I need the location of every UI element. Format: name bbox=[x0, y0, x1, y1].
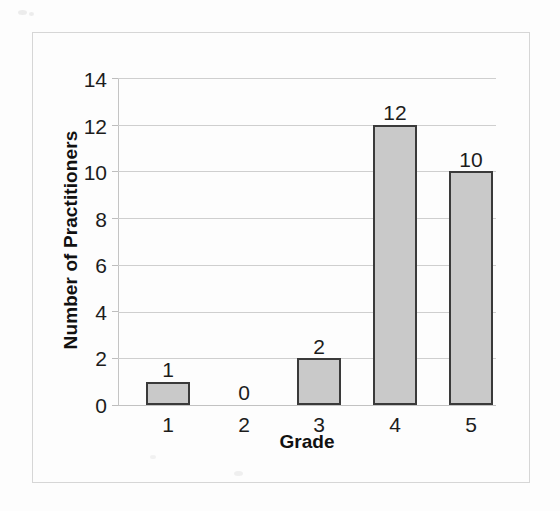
bar-label-grade-1: 1 bbox=[146, 359, 190, 380]
bar-label-grade-2: 0 bbox=[222, 382, 266, 403]
y-axis-title: Number of Practitioners bbox=[60, 95, 82, 385]
gridline-6 bbox=[118, 265, 496, 266]
gridline-10 bbox=[118, 171, 496, 172]
bar-grade-4[interactable] bbox=[373, 125, 417, 405]
y-tick-label-14: 14 bbox=[84, 69, 107, 90]
bar-label-grade-3: 2 bbox=[297, 336, 341, 357]
gridline-14 bbox=[118, 78, 496, 79]
y-tick-label-10: 10 bbox=[84, 162, 107, 183]
bar-grade-1[interactable] bbox=[146, 382, 190, 405]
gridline-12 bbox=[118, 125, 496, 126]
y-tick-label-2: 2 bbox=[95, 348, 107, 369]
chart-frame: 14 12 10 8 6 4 2 0 Number of Practitione… bbox=[32, 32, 530, 483]
bar-label-grade-5: 10 bbox=[449, 149, 493, 170]
gridline-4 bbox=[118, 312, 496, 313]
x-axis-title: Grade bbox=[118, 431, 496, 453]
bar-grade-5[interactable] bbox=[449, 171, 493, 405]
plot-area: 1 0 2 12 10 bbox=[118, 78, 496, 405]
y-tick-label-4: 4 bbox=[95, 302, 107, 323]
gridline-0-baseline bbox=[118, 405, 496, 406]
bar-label-grade-4: 12 bbox=[373, 102, 417, 123]
scan-artifact bbox=[29, 12, 34, 16]
y-tick-label-6: 6 bbox=[95, 255, 107, 276]
chart-screenshot: 14 12 10 8 6 4 2 0 Number of Practitione… bbox=[0, 0, 560, 511]
y-tick-label-8: 8 bbox=[95, 209, 107, 230]
gridline-8 bbox=[118, 218, 496, 219]
y-tick-label-0: 0 bbox=[95, 395, 107, 416]
bar-grade-3[interactable] bbox=[297, 358, 341, 405]
y-tick-label-12: 12 bbox=[84, 116, 107, 137]
scan-artifact bbox=[18, 10, 27, 15]
